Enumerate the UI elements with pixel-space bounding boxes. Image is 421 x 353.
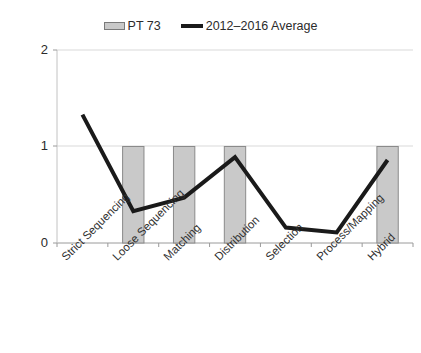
y-tick-label-0: 0 xyxy=(28,236,48,249)
y-axis-ticks xyxy=(53,50,57,243)
chart-svg xyxy=(0,0,421,353)
plot-area: 2 1 0 Strict SequencingLoose SequencingM… xyxy=(0,0,421,353)
bar-matching xyxy=(173,147,194,244)
chart-container: PT 73 2012–2016 Average xyxy=(0,0,421,353)
x-axis-ticks xyxy=(57,243,413,247)
y-tick-label-2: 2 xyxy=(28,43,48,56)
y-tick-label-1: 1 xyxy=(28,139,48,152)
